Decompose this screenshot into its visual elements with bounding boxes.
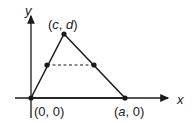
y-axis-label: y (24, 3, 33, 18)
apex-label: (c, d) (48, 17, 78, 32)
origin-label: (0, 0) (34, 104, 64, 119)
point-base (122, 95, 127, 100)
point-apex (61, 31, 66, 36)
triangle-diagram: y x (c, d) (0, 0) (a, 0) (0, 0, 192, 123)
point-midpoint-right (91, 62, 96, 67)
x-axis-label: x (176, 92, 184, 107)
base-label: (a, 0) (114, 104, 144, 119)
point-midpoint-left (44, 62, 49, 67)
point-origin (28, 95, 33, 100)
